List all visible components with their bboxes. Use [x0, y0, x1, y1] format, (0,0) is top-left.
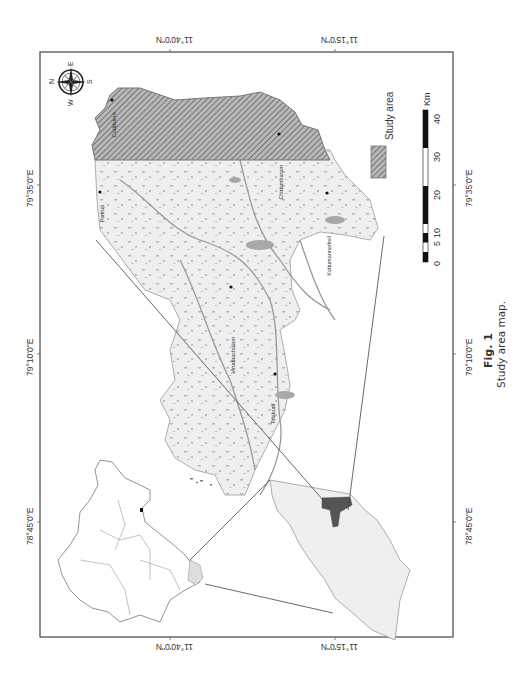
study-area-map: Cuddalore Panruti Chidambaram Kattumanna…: [0, 0, 532, 693]
legend-swatch-study-area: [371, 146, 386, 178]
compass-north-label: N: [48, 79, 55, 84]
scale-tick-0: 0: [432, 261, 442, 266]
scale-unit-label: Km: [422, 93, 432, 107]
lat-label-top-2: 11°15'0"N: [321, 35, 358, 45]
india-study-marker: [140, 508, 143, 512]
figure-caption-text: Study area map.: [495, 301, 507, 388]
scale-tick-40: 40: [432, 114, 442, 124]
scale-tick-20: 20: [432, 190, 442, 200]
lon-label-right-2: 79°10'0"E: [464, 338, 474, 376]
compass-east-label: E: [67, 61, 74, 66]
lat-label-top-1: 11°40'0"N: [156, 35, 193, 45]
scale-tick-10: 10: [432, 228, 442, 238]
town-label-chidambaram: Chidambaram: [278, 165, 284, 200]
town-label-cuddalore: Cuddalore: [111, 112, 117, 137]
figure-caption-label: Fig. 1: [482, 333, 495, 368]
legend-label-study-area: Study area: [384, 91, 395, 140]
lat-label-bottom-1: 11°40'0"N: [156, 642, 193, 652]
lon-label-left-1: 79°35'0"E: [25, 169, 35, 207]
lon-label-right-3: 78°45'0"E: [464, 507, 474, 545]
scale-tick-5: 5: [432, 241, 442, 246]
town-label-kattumannarkoil: Kattumannarkoil: [326, 236, 332, 276]
town-label-virudhachalam: Virudhachalam: [230, 337, 236, 374]
scale-tick-30: 30: [432, 152, 442, 162]
lat-label-bottom-2: 11°15'0"N: [321, 642, 358, 652]
lon-label-left-2: 79°10'0"E: [25, 338, 35, 376]
town-label-panruti: Panruti: [99, 205, 105, 222]
town-label-tittakudi: Tittakudi: [270, 404, 276, 425]
lon-label-right-1: 79°35'0"E: [464, 169, 474, 207]
compass-south-label: S: [86, 79, 93, 84]
lon-label-left-3: 78°45'0"E: [25, 507, 35, 545]
compass-west-label: W: [67, 99, 74, 106]
